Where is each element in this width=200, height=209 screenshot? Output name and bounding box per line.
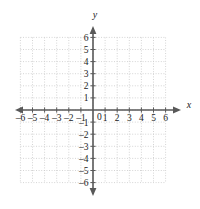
y-tick-label: –4 (78, 154, 89, 164)
y-tick-label: 1 (84, 93, 89, 103)
y-tick-label: –1 (78, 118, 89, 128)
x-tick-label: 4 (139, 113, 144, 123)
y-tick-label: 3 (84, 69, 89, 79)
coordinate-plane-svg: .gridline { stroke-width: 0.8; stroke-da… (0, 0, 200, 209)
y-tick-label: 6 (84, 33, 89, 43)
y-axis-label: y (92, 9, 98, 20)
y-tick-label: –3 (78, 142, 89, 152)
coordinate-plane-figure: .gridline { stroke-width: 0.8; stroke-da… (0, 0, 200, 209)
x-tick-label: 3 (127, 113, 132, 123)
y-tick-label: –6 (78, 178, 89, 188)
y-tick-label: –2 (78, 130, 89, 140)
x-tick-label: –4 (39, 113, 50, 123)
x-tick-label: –2 (63, 113, 74, 123)
origin-label: 0 (97, 112, 102, 122)
x-tick-label: 2 (115, 113, 120, 123)
x-tick-label: –6 (15, 113, 26, 123)
x-tick-label: 5 (151, 113, 156, 123)
x-tick-label: 6 (163, 113, 168, 123)
x-tick-label: –5 (27, 113, 38, 123)
y-tick-label: 4 (84, 57, 89, 67)
x-tick-label: –3 (51, 113, 62, 123)
y-tick-label: 5 (84, 45, 89, 55)
x-axis-label: x (186, 99, 192, 110)
y-tick-label: 2 (84, 81, 89, 91)
y-tick-label: –5 (78, 166, 89, 176)
figure-background (0, 0, 200, 209)
x-tick-label: 1 (103, 113, 108, 123)
